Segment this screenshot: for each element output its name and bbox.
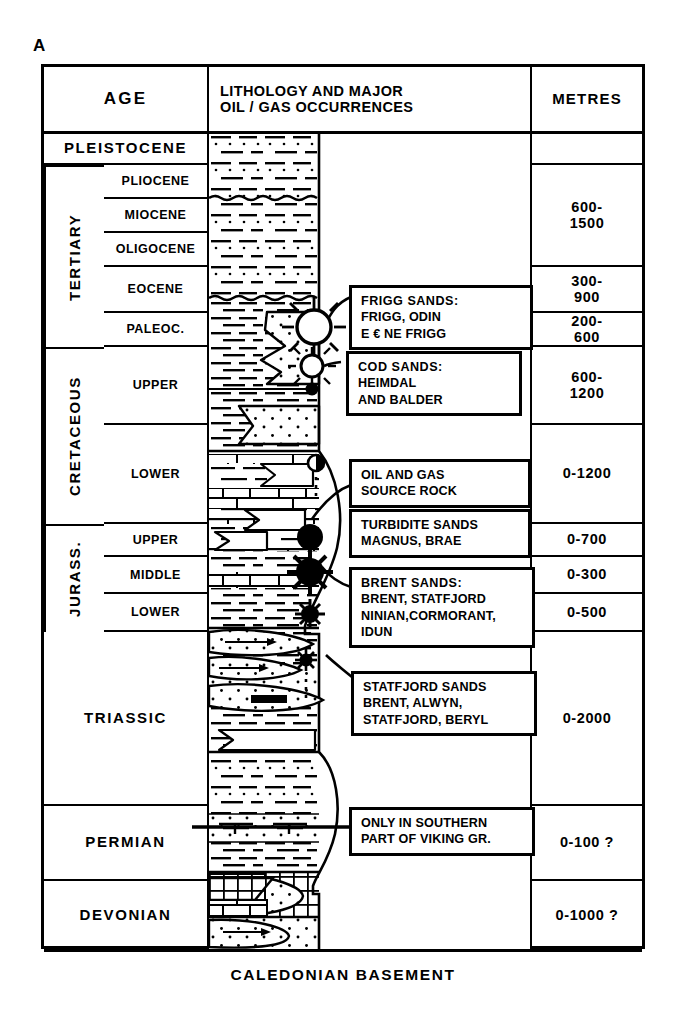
callout-brent-line1: BRENT SANDS: <box>361 575 524 591</box>
figure-label: A <box>33 36 46 56</box>
callout-source-rock: OIL AND GAS SOURCE ROCK <box>349 459 531 508</box>
metres-cell-jurassic-middle: 0-300 <box>532 557 642 594</box>
callout-source-line2: SOURCE ROCK <box>361 483 520 499</box>
callout-turbidite-sands: TURBIDITE SANDS MAGNUS, BRAE <box>349 509 531 558</box>
metres-cell-eocene: 300- 900 <box>532 267 642 313</box>
callout-cod-line1: COD SANDS: <box>358 359 511 375</box>
callout-turbidite-line1: TURBIDITE SANDS <box>361 517 520 533</box>
callout-turbidite-line2: MAGNUS, BRAE <box>361 533 520 549</box>
metres-neogene-line2: 1500 <box>570 215 605 231</box>
metres-cell-jurassic-lower: 0-500 <box>532 594 642 632</box>
metres-paleocene-line2: 600 <box>571 329 602 345</box>
callout-cod-line2: HEIMDAL <box>358 375 511 391</box>
age-cell-triassic: TRIASSIC <box>44 632 209 806</box>
callout-statfjord-line3: STATFJORD, BERYL <box>363 712 526 728</box>
callout-source-line1: OIL AND GAS <box>361 467 520 483</box>
age-cell-jurassic-lower: LOWER <box>104 594 209 632</box>
callout-frigg-line1: FRIGG SANDS: <box>361 293 522 309</box>
metres-cell-triassic: 0-2000 <box>532 632 642 806</box>
age-cell-paleocene: PALEOC. <box>104 313 209 347</box>
age-cell-miocene: MIOCENE <box>104 199 209 233</box>
callout-brent-sands: BRENT SANDS: BRENT, STATFJORD NINIAN,COR… <box>349 567 535 648</box>
age-cell-tertiary: TERTIARY <box>44 165 104 347</box>
age-cell-oligocene: OLIGOCENE <box>104 233 209 267</box>
header-lithology-line1: LITHOLOGY AND MAJOR <box>220 83 413 99</box>
metres-cell-cretaceous-upper: 600- 1200 <box>532 347 642 425</box>
stratigraphic-column-chart: AGE LITHOLOGY AND MAJOR OIL / GAS OCCURR… <box>41 64 645 949</box>
metres-cell-devonian: 0-1000 ? <box>532 881 642 949</box>
metres-cell-permian: 0-100 ? <box>532 806 642 881</box>
header-lithology: LITHOLOGY AND MAJOR OIL / GAS OCCURRENCE… <box>209 67 532 134</box>
metres-neogene-line1: 600- <box>570 199 605 215</box>
age-cell-cretaceous-lower: LOWER <box>104 425 209 524</box>
callout-frigg-line2: FRIGG, ODIN <box>361 309 522 325</box>
age-cell-pliocene: PLIOCENE <box>104 165 209 199</box>
metres-cret-upper-line2: 1200 <box>570 385 605 401</box>
callout-cod-sands: COD SANDS: HEIMDAL AND BALDER <box>346 351 522 416</box>
header-metres: METRES <box>532 67 642 134</box>
age-cell-devonian: DEVONIAN <box>44 881 209 949</box>
callout-viking-line1: ONLY IN SOUTHERN <box>361 815 524 831</box>
basement-row: CALEDONIAN BASEMENT <box>44 949 642 997</box>
callout-statfjord-line2: BRENT, ALWYN, <box>363 695 526 711</box>
metres-cell-paleocene: 200- 600 <box>532 313 642 347</box>
callout-cod-line3: AND BALDER <box>358 392 511 408</box>
callout-statfjord-sands: STATFJORD SANDS BRENT, ALWYN, STATFJORD,… <box>351 671 537 736</box>
metres-cell-cretaceous-lower: 0-1200 <box>532 425 642 524</box>
metres-paleocene-line1: 200- <box>571 313 602 329</box>
header-age: AGE <box>44 67 209 134</box>
age-cell-cretaceous-upper: UPPER <box>104 347 209 425</box>
metres-eocene-line1: 300- <box>571 273 602 289</box>
callout-frigg-line3: E € NE FRIGG <box>361 326 522 342</box>
callout-viking-group: ONLY IN SOUTHERN PART OF VIKING GR. <box>349 807 535 856</box>
callout-viking-line2: PART OF VIKING GR. <box>361 831 524 847</box>
age-cell-pleistocene: PLEISTOCENE <box>44 134 209 165</box>
age-cell-eocene: EOCENE <box>104 267 209 313</box>
callout-brent-line2: BRENT, STATFJORD <box>361 591 524 607</box>
callout-brent-line4: IDUN <box>361 624 524 640</box>
age-cell-jurassic: JURASS. <box>44 524 104 632</box>
callout-statfjord-line1: STATFJORD SANDS <box>363 679 526 695</box>
header-lithology-line2: OIL / GAS OCCURRENCES <box>220 99 413 115</box>
metres-cell-pleistocene <box>532 134 642 165</box>
age-cell-cretaceous: CRETACEOUS <box>44 347 104 524</box>
metres-cell-neogene: 600- 1500 <box>532 165 642 267</box>
metres-eocene-line2: 900 <box>571 289 602 305</box>
metres-cell-jurassic-upper: 0-700 <box>532 524 642 557</box>
metres-cret-upper-line1: 600- <box>570 369 605 385</box>
age-cell-jurassic-middle: MIDDLE <box>104 557 209 594</box>
age-cell-jurassic-upper: UPPER <box>104 524 209 557</box>
callout-brent-line3: NINIAN,CORMORANT, <box>361 608 524 624</box>
callout-frigg-sands: FRIGG SANDS: FRIGG, ODIN E € NE FRIGG <box>349 285 533 350</box>
age-cell-permian: PERMIAN <box>44 806 209 881</box>
